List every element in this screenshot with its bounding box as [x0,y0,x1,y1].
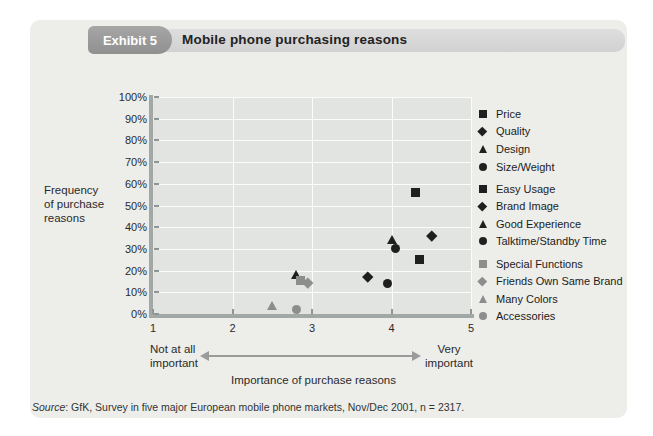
exhibit-title: Mobile phone purchasing reasons [182,32,407,47]
legend-marker-cell [479,163,492,171]
exhibit-page: Mobile phone purchasing reasons Exhibit … [0,0,653,436]
exhibit-title-bar: Mobile phone purchasing reasons [102,29,625,52]
legend-row: Price [479,105,623,123]
annotation-line: important [150,357,198,371]
x-axis-title: Importance of purchase reasons [203,374,424,386]
x-tick-label: 5 [461,322,481,334]
legend-marker-cell [479,220,492,228]
legend-marker-cell [479,278,492,285]
legend: PriceQualityDesignSize/WeightEasy UsageB… [479,105,623,325]
y-tick-label: 80% [111,134,147,146]
v-gridline [471,97,472,314]
y-tick-label: 0% [111,308,147,320]
y-tick-label: 90% [111,113,147,125]
legend-row: Accessories [479,308,623,326]
legend-label: Talktime/Standby Time [496,235,607,247]
y-tick-label: 70% [111,156,147,168]
source-note: Source: GfK, Survey in five major Europe… [32,401,464,413]
legend-marker-cell [479,237,492,245]
legend-marker-cell [479,203,492,210]
legend-row: Special Functions [479,255,623,273]
x-tick-label: 1 [143,322,163,334]
source-text: : GfK, Survey in five major European mob… [65,401,464,413]
triangle-marker-icon [479,220,487,228]
legend-label: Price [496,108,521,120]
legend-label: Friends Own Same Brand [496,275,623,287]
square-marker-icon [479,185,487,193]
legend-label: Good Experience [496,218,581,230]
y-tick-label: 100% [111,91,147,103]
legend-marker-cell [479,110,492,118]
y-tick [154,291,159,293]
exhibit-badge-label: Exhibit 5 [103,33,157,48]
x-axis-annotation-right: Very important [420,343,478,370]
x-axis-line [149,314,474,318]
y-axis-label: Frequency of purchase reasons [44,183,104,225]
y-tick [154,226,159,228]
source-label: Source [32,401,65,413]
square-marker-icon [479,260,487,268]
x-tick [470,309,472,314]
data-point-easy-usage [415,255,424,264]
y-tick [154,96,159,98]
triangle-marker-icon [479,295,487,303]
y-tick [154,205,159,207]
legend-marker-cell [479,295,492,303]
y-axis-label-line: reasons [44,211,104,225]
x-tick-label: 3 [302,322,322,334]
legend-row: Quality [479,123,623,141]
y-axis-label-line: of purchase [44,197,104,211]
legend-label: Design [496,143,530,155]
diamond-marker-icon [478,127,487,136]
y-axis-line [149,95,153,318]
y-tick [154,139,159,141]
legend-label: Many Colors [496,293,558,305]
y-tick [154,183,159,185]
y-tick-label: 30% [111,243,147,255]
legend-marker-cell [479,185,492,193]
legend-row: Good Experience [479,215,623,233]
triangle-marker-icon [479,145,487,153]
legend-row: Many Colors [479,290,623,308]
data-point-many-colors [267,301,277,310]
y-tick-label: 50% [111,200,147,212]
y-tick [154,270,159,272]
legend-row: Size/Weight [479,158,623,176]
y-tick-label: 10% [111,286,147,298]
data-point-design [387,235,397,244]
x-axis-annotation-left: Not at all important [150,343,198,370]
v-gridline [233,97,234,314]
annotation-line: important [420,357,478,371]
diamond-marker-icon [478,277,487,286]
legend-label: Easy Usage [496,183,555,195]
x-tick [152,309,154,314]
circle-marker-icon [479,237,487,245]
data-point-price [411,188,420,197]
y-tick [154,313,159,315]
x-tick [232,309,234,314]
legend-label: Brand Image [496,200,559,212]
square-marker-icon [479,110,487,118]
diamond-marker-icon [478,202,487,211]
legend-row: Talktime/Standby Time [479,233,623,251]
legend-label: Quality [496,125,530,137]
importance-double-arrow-icon [209,355,412,357]
legend-marker-cell [479,312,492,320]
y-axis-label-line: Frequency [44,183,104,197]
y-tick [154,118,159,120]
legend-row: Design [479,140,623,158]
legend-row: Friends Own Same Brand [479,272,623,290]
y-tick [154,248,159,250]
legend-row: Easy Usage [479,180,623,198]
y-tick [154,161,159,163]
exhibit-badge: Exhibit 5 [88,26,172,54]
legend-marker-cell [479,260,492,268]
x-tick [391,309,393,314]
x-tick [311,309,313,314]
data-point-accessories [292,305,301,314]
legend-label: Special Functions [496,258,583,270]
legend-label: Accessories [496,310,555,322]
y-tick-label: 60% [111,178,147,190]
legend-row: Brand Image [479,197,623,215]
x-tick-label: 2 [223,322,243,334]
